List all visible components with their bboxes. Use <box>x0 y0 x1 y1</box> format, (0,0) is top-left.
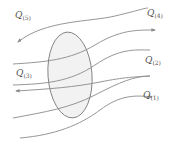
flow-diagram: Q(5)Q(4)Q(3)Q(2)Q(1) <box>0 0 172 147</box>
label-subscript: (2) <box>152 59 161 66</box>
label-q5: Q(5) <box>15 11 31 21</box>
label-q3: Q(3) <box>16 69 32 79</box>
label-q2: Q(2) <box>145 56 161 66</box>
label-subscript: (1) <box>150 94 159 101</box>
control-volume-ellipse <box>45 31 95 120</box>
label-subscript: (3) <box>23 72 32 79</box>
label-q4: Q(4) <box>147 9 163 19</box>
flow-line-q5 <box>18 8 148 42</box>
label-subscript: (4) <box>154 12 163 19</box>
label-subscript: (5) <box>22 14 31 21</box>
label-q1: Q(1) <box>143 91 159 101</box>
